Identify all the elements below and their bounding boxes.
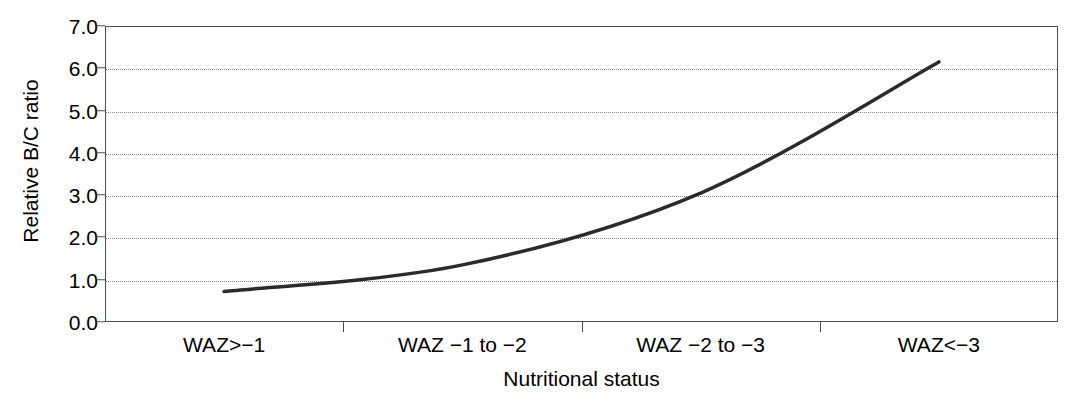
y-axis-tick-mark [96, 321, 105, 322]
x-axis-tick-mark [582, 322, 583, 332]
y-axis-tick-mark [96, 194, 105, 195]
grid-line [106, 154, 1057, 155]
y-axis-tick-label: 7.0 [36, 16, 98, 37]
x-axis-tick-label: WAZ −2 to −3 [636, 334, 765, 355]
y-axis-tick-mark [96, 68, 105, 69]
x-axis-title: Nutritional status [105, 368, 1058, 389]
grid-line [106, 238, 1057, 239]
x-axis-tick-label: WAZ>−1 [183, 334, 265, 355]
y-axis-tick-mark [96, 279, 105, 280]
grid-line [106, 281, 1057, 282]
plot-area [105, 26, 1058, 322]
y-axis-tick-label: 5.0 [36, 100, 98, 121]
x-axis-tick-label: WAZ<−3 [898, 334, 980, 355]
grid-line [106, 69, 1057, 70]
y-axis-tick-label: 0.0 [36, 312, 98, 333]
y-axis-tick-label: 2.0 [36, 227, 98, 248]
y-axis-tick-mark [96, 237, 105, 238]
y-axis-tick-label: 1.0 [36, 269, 98, 290]
y-axis-tick-labels: 0.01.02.03.04.05.06.07.0 [36, 0, 98, 416]
y-axis-tick-label: 3.0 [36, 185, 98, 206]
x-axis-tick-mark [343, 322, 344, 332]
y-axis-tick-label: 4.0 [36, 142, 98, 163]
y-axis-tick-mark [96, 110, 105, 111]
grid-line [106, 196, 1057, 197]
y-axis-tick-mark [96, 25, 105, 26]
x-axis-tick-label: WAZ −1 to −2 [398, 334, 527, 355]
y-axis-tick-label: 6.0 [36, 58, 98, 79]
x-axis-tick-mark [820, 322, 821, 332]
grid-line [106, 112, 1057, 113]
y-axis-tick-mark [96, 152, 105, 153]
chart-figure: Relative B/C ratio 0.01.02.03.04.05.06.0… [0, 0, 1086, 416]
